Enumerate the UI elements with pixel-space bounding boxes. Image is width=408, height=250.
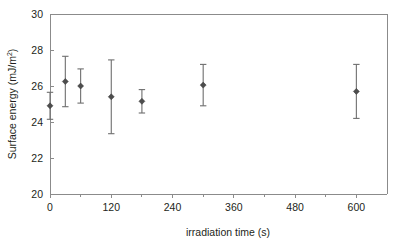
svg-text:Surface energy (mJ/m2): Surface energy (mJ/m2)	[6, 49, 18, 160]
x-tick-label: 600	[348, 201, 366, 213]
scatter-plot: 0120240360480600 202224262830 irradiatio…	[0, 0, 408, 250]
y-axis-title-main: Surface energy	[6, 87, 18, 159]
data-point	[77, 69, 83, 103]
y-axis-title-units: (mJ/m	[6, 56, 18, 85]
y-axis-title-units-close: )	[6, 49, 18, 53]
data-point	[62, 56, 68, 106]
data-point	[353, 64, 359, 118]
diamond-marker	[139, 98, 145, 104]
x-tick-label: 120	[103, 201, 121, 213]
data-point	[47, 92, 53, 119]
x-axis-tick-labels: 0120240360480600	[47, 201, 365, 213]
y-tick-label: 26	[31, 80, 43, 92]
y-tick-label: 22	[31, 152, 43, 164]
y-tick-label: 30	[31, 8, 43, 20]
diamond-marker	[78, 83, 84, 89]
data-point	[200, 64, 206, 105]
x-tick-label: 0	[47, 201, 53, 213]
plot-axes	[50, 14, 387, 194]
y-axis-title-group: Surface energy (mJ/m2)	[6, 49, 18, 160]
chart-container: 0120240360480600 202224262830 irradiatio…	[0, 0, 408, 250]
data-point	[108, 60, 114, 134]
diamond-marker	[353, 88, 359, 94]
diamond-marker	[108, 94, 114, 100]
diamond-marker	[200, 82, 206, 88]
x-axis-title: irradiation time (s)	[186, 226, 270, 238]
y-axis-tick-labels: 202224262830	[31, 8, 43, 200]
y-tick-label: 20	[31, 188, 43, 200]
y-tick-label: 28	[31, 44, 43, 56]
x-tick-label: 480	[286, 201, 304, 213]
x-tick-label: 240	[164, 201, 182, 213]
data-series	[47, 56, 360, 133]
diamond-marker	[47, 103, 53, 109]
data-point	[139, 90, 145, 113]
x-tick-label: 360	[225, 201, 243, 213]
diamond-marker	[62, 79, 68, 85]
y-tick-label: 24	[31, 116, 43, 128]
